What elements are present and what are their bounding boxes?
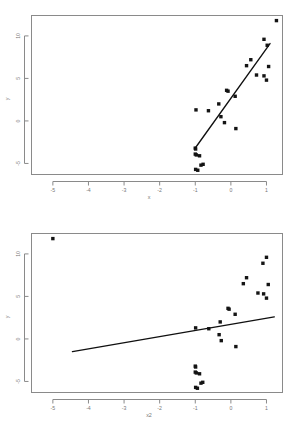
x-tick-label-bottom-3: -2 bbox=[157, 405, 162, 411]
x-axis-title-top: x bbox=[148, 194, 151, 200]
x-axis-title-bottom: x2 bbox=[146, 412, 152, 418]
plot-frame-bottom bbox=[32, 234, 283, 393]
x-tick-label-top-5: 0 bbox=[229, 187, 232, 193]
data-point-top-15 bbox=[219, 115, 222, 118]
y-tick-label-bottom-0: -5 bbox=[15, 379, 21, 384]
data-point-bottom-5 bbox=[267, 283, 270, 286]
x-axis-top: -5-4-3-2-101 bbox=[51, 182, 268, 194]
y-tick-label-top-3: 10 bbox=[15, 33, 21, 39]
x-tick-label-top-3: -2 bbox=[157, 187, 162, 193]
data-point-bottom-3 bbox=[245, 276, 248, 279]
data-point-top-8 bbox=[265, 78, 268, 81]
data-point-bottom-10 bbox=[227, 307, 230, 310]
data-point-top-7 bbox=[262, 74, 265, 77]
y-axis-title-top: y bbox=[4, 97, 10, 100]
data-point-bottom-1 bbox=[265, 256, 268, 259]
data-point-bottom-17 bbox=[234, 345, 237, 348]
data-point-top-4 bbox=[245, 64, 248, 67]
x-tick-label-top-0: -5 bbox=[51, 187, 56, 193]
scatter-plot-svg-top: -5-4-3-2-101 -50510 x y bbox=[0, 0, 298, 217]
data-point-bottom-24 bbox=[201, 381, 204, 384]
regression-line-top bbox=[195, 44, 270, 149]
data-point-bottom-22 bbox=[198, 372, 201, 375]
data-point-bottom-0 bbox=[51, 237, 54, 240]
data-point-bottom-19 bbox=[194, 365, 197, 368]
fit-line-top bbox=[195, 44, 270, 149]
y-tick-label-bottom-1: 0 bbox=[15, 337, 21, 340]
scatter-plot-svg-bottom: -5-4-3-2-101 -50510 x2 y bbox=[0, 218, 298, 435]
data-point-top-6 bbox=[255, 73, 258, 76]
data-point-top-5 bbox=[267, 65, 270, 68]
x-axis-bottom: -5-4-3-2-101 bbox=[51, 400, 268, 412]
data-point-top-22 bbox=[198, 154, 201, 157]
y-tick-label-bottom-3: 10 bbox=[15, 251, 21, 257]
data-point-top-16 bbox=[223, 121, 226, 124]
data-point-bottom-7 bbox=[262, 292, 265, 295]
x-tick-label-bottom-6: 1 bbox=[265, 405, 268, 411]
x-tick-label-bottom-4: -1 bbox=[193, 405, 198, 411]
data-point-bottom-21 bbox=[195, 371, 198, 374]
data-point-top-26 bbox=[196, 169, 199, 172]
data-point-bottom-2 bbox=[261, 262, 264, 265]
x-tick-label-top-1: -4 bbox=[86, 187, 91, 193]
data-point-bottom-11 bbox=[233, 313, 236, 316]
x-tick-label-bottom-0: -5 bbox=[51, 405, 56, 411]
fit-line-bottom bbox=[72, 317, 274, 352]
x-tick-label-bottom-1: -4 bbox=[86, 405, 91, 411]
y-tick-label-bottom-2: 5 bbox=[15, 295, 21, 298]
x-tick-label-top-2: -3 bbox=[122, 187, 127, 193]
data-point-top-13 bbox=[194, 108, 197, 111]
data-point-top-1 bbox=[262, 38, 265, 41]
data-points-top bbox=[194, 19, 279, 172]
x-tick-label-top-6: 1 bbox=[265, 187, 268, 193]
scatter-panel-bottom: -5-4-3-2-101 -50510 x2 y bbox=[0, 218, 298, 435]
x-tick-label-bottom-2: -3 bbox=[122, 405, 127, 411]
data-point-top-10 bbox=[226, 89, 229, 92]
regression-line-bottom bbox=[72, 317, 274, 352]
y-tick-label-top-2: 5 bbox=[15, 77, 21, 80]
data-point-top-21 bbox=[195, 153, 198, 156]
y-axis-title-bottom: y bbox=[4, 315, 10, 318]
data-point-bottom-16 bbox=[220, 339, 223, 342]
data-points-bottom bbox=[51, 237, 270, 390]
data-point-bottom-6 bbox=[256, 291, 259, 294]
data-point-top-12 bbox=[217, 102, 220, 105]
data-point-bottom-15 bbox=[217, 333, 220, 336]
y-axis-top: -50510 bbox=[15, 33, 29, 166]
data-point-top-17 bbox=[234, 127, 237, 130]
data-point-top-14 bbox=[207, 109, 210, 112]
data-point-bottom-12 bbox=[218, 320, 221, 323]
scatter-panel-top: -5-4-3-2-101 -50510 x y bbox=[0, 0, 298, 217]
data-point-bottom-8 bbox=[265, 296, 268, 299]
data-point-top-0 bbox=[275, 19, 278, 22]
y-tick-label-top-0: -5 bbox=[15, 161, 21, 166]
plot-frame-top bbox=[32, 16, 283, 175]
data-point-top-24 bbox=[201, 163, 204, 166]
x-tick-label-top-4: -1 bbox=[193, 187, 198, 193]
data-point-bottom-4 bbox=[242, 282, 245, 285]
y-tick-label-top-1: 0 bbox=[15, 119, 21, 122]
x-tick-label-bottom-5: 0 bbox=[229, 405, 232, 411]
y-axis-bottom: -50510 bbox=[15, 251, 29, 384]
data-point-top-3 bbox=[249, 58, 252, 61]
data-point-bottom-13 bbox=[194, 326, 197, 329]
figure-container: -5-4-3-2-101 -50510 x y -5-4-3-2-101 -50… bbox=[0, 0, 298, 435]
data-point-bottom-26 bbox=[196, 387, 199, 390]
